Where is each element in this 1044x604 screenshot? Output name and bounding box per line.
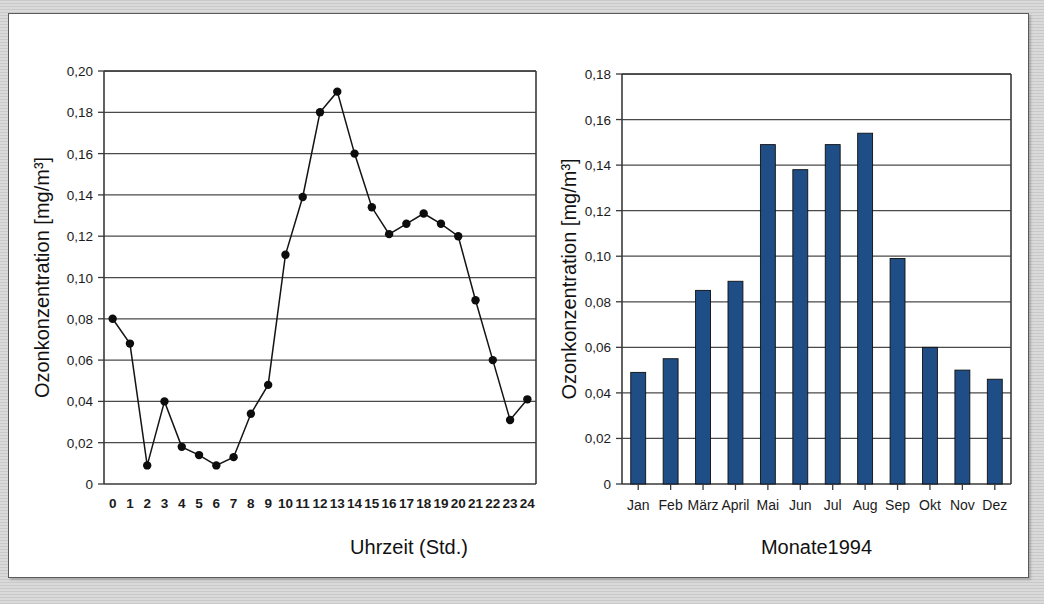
data-point-marker <box>229 453 237 461</box>
y-tick-label: 0,18 <box>585 67 611 82</box>
x-tick-label: Jul <box>824 497 842 513</box>
x-tick-label: April <box>721 497 749 513</box>
data-point-marker <box>333 87 341 95</box>
data-series-line <box>113 92 528 466</box>
x-tick-label: 8 <box>247 496 255 511</box>
y-tick-label: 0,14 <box>67 188 94 203</box>
x-tick-label: 22 <box>485 496 500 511</box>
bar <box>987 379 1002 484</box>
x-tick-label: 23 <box>503 496 519 511</box>
bar-chart-panel: 00,020,040,060,080,100,120,140,160,18Jan… <box>554 14 1030 579</box>
x-tick-label: 10 <box>278 496 293 511</box>
bar <box>696 290 711 484</box>
y-tick-label: 0,08 <box>67 312 93 327</box>
y-tick-label: 0 <box>603 477 611 492</box>
page-background: 00,020,040,060,080,100,120,140,160,180,2… <box>0 0 1044 604</box>
x-tick-label: 14 <box>347 496 363 511</box>
y-axis-title: Ozonkonzentration [mg/m³] <box>31 157 53 398</box>
bar <box>923 347 938 484</box>
x-tick-label: 19 <box>433 496 448 511</box>
y-tick-label: 0,16 <box>585 113 611 128</box>
data-point-marker <box>419 209 427 217</box>
x-tick-label: 3 <box>161 496 169 511</box>
x-tick-label: 7 <box>230 496 238 511</box>
bar <box>890 259 905 485</box>
data-point-marker <box>178 443 186 451</box>
data-point-marker <box>247 410 255 418</box>
line-chart-svg: 00,020,040,060,080,100,120,140,160,180,2… <box>9 14 554 579</box>
y-tick-label: 0,12 <box>67 229 93 244</box>
x-tick-label: 17 <box>399 496 414 511</box>
y-tick-label: 0,16 <box>67 147 93 162</box>
data-point-marker <box>212 461 220 469</box>
data-point-marker <box>126 339 134 347</box>
data-point-marker <box>402 220 410 228</box>
data-point-marker <box>281 251 289 259</box>
x-axis-title: Monate1994 <box>761 536 872 558</box>
x-tick-label: März <box>687 497 718 513</box>
y-tick-label: 0,02 <box>585 431 611 446</box>
x-tick-label: 18 <box>416 496 432 511</box>
data-point-marker <box>368 203 376 211</box>
x-axis-title: Uhrzeit (Std.) <box>350 536 468 558</box>
y-tick-label: 0,18 <box>67 105 93 120</box>
x-tick-label: Mai <box>757 497 780 513</box>
bar <box>631 372 646 484</box>
x-tick-label: 12 <box>312 496 327 511</box>
y-tick-label: 0,20 <box>67 64 93 79</box>
data-point-marker <box>506 416 514 424</box>
data-point-marker <box>108 315 116 323</box>
bar-chart-svg: 00,020,040,060,080,100,120,140,160,18Jan… <box>554 14 1030 579</box>
x-tick-label: 16 <box>382 496 398 511</box>
data-point-marker <box>471 296 479 304</box>
bar <box>858 133 873 484</box>
x-tick-label: 13 <box>330 496 346 511</box>
data-point-marker <box>316 108 324 116</box>
x-tick-label: Sep <box>885 497 910 513</box>
figure-paper: 00,020,040,060,080,100,120,140,160,180,2… <box>8 13 1029 578</box>
x-tick-label: Jun <box>789 497 812 513</box>
x-tick-label: 11 <box>296 496 311 511</box>
y-tick-label: 0,04 <box>585 386 612 401</box>
x-tick-label: Nov <box>950 497 975 513</box>
x-tick-label: Okt <box>919 497 941 513</box>
y-tick-label: 0 <box>85 477 93 492</box>
y-tick-label: 0,02 <box>67 436 93 451</box>
data-point-marker <box>350 149 358 157</box>
bar <box>663 359 678 484</box>
x-tick-label: Dez <box>982 497 1007 513</box>
x-tick-label: 2 <box>143 496 151 511</box>
data-point-marker <box>489 356 497 364</box>
y-tick-label: 0,10 <box>585 249 611 264</box>
data-point-marker <box>385 230 393 238</box>
y-axis-title: Ozonkonzentration [mg/m³] <box>558 158 580 399</box>
data-point-marker <box>523 395 531 403</box>
data-point-marker <box>454 232 462 240</box>
bar <box>793 170 808 484</box>
x-tick-label: 24 <box>520 496 536 511</box>
bar <box>825 145 840 484</box>
data-point-marker <box>437 220 445 228</box>
x-tick-label: Feb <box>659 497 683 513</box>
data-point-marker <box>299 193 307 201</box>
x-tick-label: 5 <box>195 496 203 511</box>
x-tick-label: 15 <box>364 496 380 511</box>
x-tick-label: 1 <box>126 496 134 511</box>
y-tick-label: 0,06 <box>585 340 611 355</box>
line-chart-panel: 00,020,040,060,080,100,120,140,160,180,2… <box>9 14 554 579</box>
x-tick-label: 21 <box>468 496 484 511</box>
data-point-marker <box>264 381 272 389</box>
y-tick-label: 0,06 <box>67 353 93 368</box>
y-tick-label: 0,08 <box>585 295 611 310</box>
data-point-marker <box>195 451 203 459</box>
x-tick-label: 0 <box>109 496 117 511</box>
bar <box>760 145 775 484</box>
x-tick-label: Aug <box>853 497 878 513</box>
bar <box>955 370 970 484</box>
y-tick-label: 0,10 <box>67 271 93 286</box>
y-tick-label: 0,14 <box>585 158 612 173</box>
x-tick-label: 9 <box>264 496 272 511</box>
data-point-marker <box>143 461 151 469</box>
x-tick-label: Jan <box>627 497 650 513</box>
x-tick-label: 6 <box>213 496 221 511</box>
